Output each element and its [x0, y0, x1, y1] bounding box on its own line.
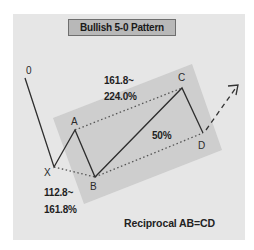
arrow-head-icon: [228, 85, 238, 95]
pattern-diagram: [0, 0, 254, 250]
title-box: Bullish 5-0 Pattern: [68, 19, 176, 36]
ratio-bd: 50%: [152, 131, 171, 141]
point-label-c: C: [178, 73, 185, 83]
ratio-xc-line1: 161.8~: [104, 76, 134, 86]
ratio-xb-line2: 161.8%: [44, 205, 77, 215]
diagram-title: Bullish 5-0 Pattern: [80, 22, 164, 33]
point-label-b: B: [90, 182, 97, 192]
point-label-0: 0: [26, 66, 32, 76]
point-label-x: X: [44, 168, 51, 178]
point-label-a: A: [71, 117, 78, 127]
ratio-xb-line1: 112.8~: [44, 188, 73, 198]
ratio-xc-line2: 224.0%: [104, 92, 137, 102]
pattern-caption: Reciprocal AB=CD: [124, 218, 215, 229]
point-label-d: D: [198, 141, 205, 151]
